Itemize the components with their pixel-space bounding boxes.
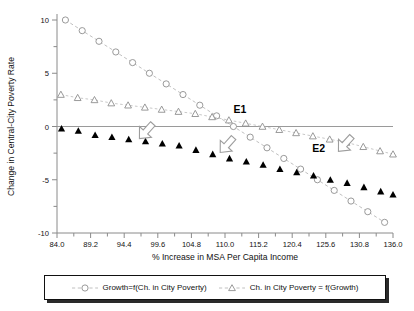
axis-layer <box>52 14 393 238</box>
data-point-filled-triangle <box>226 155 233 162</box>
data-point-triangle <box>158 106 165 112</box>
data-point-circle <box>281 155 287 161</box>
data-point-filled-triangle <box>360 184 367 191</box>
x-tick-label: 110.0 <box>216 240 234 249</box>
data-point-filled-triangle <box>142 138 149 145</box>
data-point-triangle <box>360 143 367 149</box>
arrow-2-icon <box>214 132 239 158</box>
legend-marker-open-circle <box>72 282 98 294</box>
data-point-circle <box>247 134 253 140</box>
annotation-e2: E2 <box>312 142 325 154</box>
data-point-circle <box>113 49 119 55</box>
data-point-triangle <box>57 91 64 97</box>
x-tick-label: 120.4 <box>283 240 302 249</box>
data-point-circle <box>382 219 388 225</box>
data-point-circle <box>146 70 152 76</box>
data-point-circle <box>96 38 102 44</box>
data-point-triangle <box>225 117 232 123</box>
data-point-circle <box>230 123 236 129</box>
data-point-triangle <box>242 120 249 126</box>
chart-page: E1E2 84.089.294.499.6104.8110.0115.2120.… <box>0 0 414 311</box>
data-point-filled-triangle <box>243 158 250 165</box>
data-point-circle <box>197 102 203 108</box>
data-point-filled-triangle <box>260 161 267 168</box>
y-tick-label: -10 <box>38 229 49 238</box>
y-axis-title: Change in Central-City Poverty Rate <box>6 57 16 196</box>
data-point-circle <box>62 17 68 23</box>
x-tick-label: 130.8 <box>350 240 369 249</box>
data-point-circle <box>331 187 337 193</box>
data-point-filled-triangle <box>276 166 283 173</box>
data-point-circle <box>348 198 354 204</box>
x-tick-label: 84.0 <box>50 240 65 249</box>
data-point-filled-triangle <box>377 188 384 195</box>
data-point-filled-triangle <box>192 146 199 153</box>
data-point-filled-triangle <box>92 131 99 138</box>
data-point-triangle <box>276 126 283 132</box>
data-point-circle <box>79 28 85 34</box>
legend-label: Growth=f(Ch. in City Poverty) <box>103 283 207 292</box>
data-point-filled-triangle <box>125 136 132 143</box>
data-point-circle <box>298 166 304 172</box>
x-tick-label: 89.2 <box>83 240 98 249</box>
legend-label: Ch. in City Poverty = f(Growth) <box>250 283 359 292</box>
data-point-triangle <box>108 100 115 106</box>
y-tick-label: -5 <box>42 176 49 185</box>
data-point-triangle <box>192 110 199 116</box>
x-tick-label: 136.0 <box>383 240 402 249</box>
data-point-triangle <box>74 94 81 100</box>
x-tick-label: 104.8 <box>182 240 201 249</box>
annotation-layer: E1E2 <box>133 103 357 158</box>
x-tick-label: 125.6 <box>316 240 335 249</box>
data-point-filled-triangle <box>75 127 82 134</box>
x-tick-label: 94.4 <box>117 240 132 249</box>
x-axis-title: % Increase in MSA Per Capita Income <box>152 252 298 262</box>
series-filled-triangle <box>58 125 397 198</box>
data-point-filled-triangle <box>327 176 334 183</box>
data-point-filled-triangle <box>344 179 351 186</box>
data-point-triangle <box>141 104 148 110</box>
data-point-filled-triangle <box>389 191 396 198</box>
data-point-circle <box>264 145 270 151</box>
annotation-e1: E1 <box>233 103 246 115</box>
data-point-circle <box>130 60 136 66</box>
series-open-circle <box>62 17 387 226</box>
series-layer <box>57 17 396 226</box>
data-point-circle <box>163 81 169 87</box>
data-point-filled-triangle <box>176 142 183 149</box>
legend-marker-open-triangle <box>219 282 245 294</box>
x-tick-label: 99.6 <box>150 240 165 249</box>
legend-item-0[interactable]: Growth=f(Ch. in City Poverty) <box>72 282 207 294</box>
data-point-filled-triangle <box>209 151 216 158</box>
data-point-filled-triangle <box>108 134 115 141</box>
y-tick-label: 5 <box>45 69 49 78</box>
y-tick-label: 0 <box>45 123 49 132</box>
data-point-filled-triangle <box>159 140 166 147</box>
data-point-circle <box>180 91 186 97</box>
legend-item-1[interactable]: Ch. in City Poverty = f(Growth) <box>219 282 359 294</box>
chart-plot-area: E1E2 84.089.294.499.6104.8110.0115.2120.… <box>0 0 414 268</box>
data-point-triangle <box>309 133 316 139</box>
data-point-circle <box>365 209 371 215</box>
chart-legend: Growth=f(Ch. in City Poverty)Ch. in City… <box>44 275 386 300</box>
x-tick-label: 115.2 <box>249 240 267 249</box>
y-tick-label: 10 <box>41 16 49 25</box>
tick-label-layer: 84.089.294.499.6104.8110.0115.2120.4125.… <box>6 16 403 262</box>
